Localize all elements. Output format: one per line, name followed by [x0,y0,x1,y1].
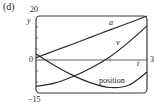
series-line-a [36,16,147,58]
series-line-v [36,26,147,87]
frame-rect [36,16,147,93]
plot-frame [36,16,147,93]
plot-curves [36,16,147,88]
plot-area [0,0,160,108]
series-line-position [36,54,147,88]
